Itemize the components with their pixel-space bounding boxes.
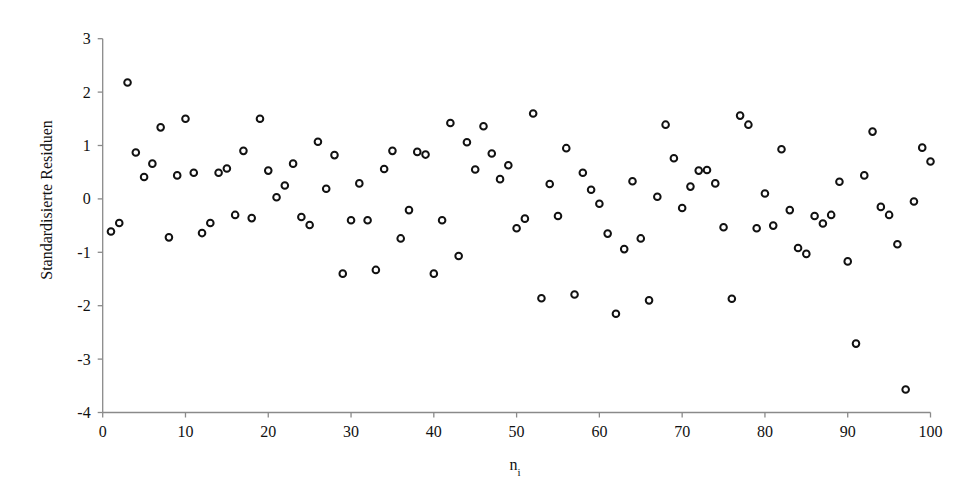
data-point-marker bbox=[190, 169, 197, 176]
data-point-marker bbox=[273, 194, 280, 201]
data-point-marker bbox=[778, 146, 785, 153]
data-point-marker bbox=[629, 178, 636, 185]
y-tick-label: 0 bbox=[83, 190, 91, 207]
data-point-marker bbox=[894, 241, 901, 248]
y-axis-title: Standardisierte Residuen bbox=[38, 120, 55, 280]
data-point-marker bbox=[265, 167, 272, 174]
data-point-marker bbox=[331, 152, 338, 159]
data-point-marker bbox=[257, 116, 264, 123]
data-point-marker bbox=[306, 222, 313, 229]
data-point-marker bbox=[637, 235, 644, 242]
x-tick-label: 80 bbox=[757, 423, 773, 440]
x-axis-title-subscript: i bbox=[517, 466, 520, 478]
data-point-marker bbox=[902, 386, 909, 393]
data-point-marker bbox=[695, 167, 702, 174]
data-point-marker bbox=[232, 212, 239, 219]
data-point-marker bbox=[878, 204, 885, 211]
data-point-marker bbox=[472, 166, 479, 173]
data-point-marker bbox=[240, 148, 247, 155]
x-tick-label: 40 bbox=[426, 423, 442, 440]
data-point-marker bbox=[613, 310, 620, 317]
x-axis-title-main: n bbox=[509, 456, 517, 473]
data-point-marker bbox=[166, 234, 173, 241]
data-point-marker bbox=[323, 185, 330, 192]
x-tick-label: 0 bbox=[99, 423, 107, 440]
data-point-marker bbox=[381, 166, 388, 173]
data-point-marker bbox=[315, 138, 322, 145]
y-tick-label: 1 bbox=[83, 137, 91, 154]
y-tick-label: -1 bbox=[77, 244, 90, 261]
data-point-marker bbox=[215, 169, 222, 176]
x-tick-label: 50 bbox=[509, 423, 525, 440]
data-point-marker bbox=[737, 112, 744, 119]
data-point-marker bbox=[687, 183, 694, 190]
y-tick-label: -2 bbox=[77, 297, 90, 314]
data-point-marker bbox=[911, 198, 918, 205]
data-point-marker bbox=[439, 217, 446, 224]
data-point-marker bbox=[488, 150, 495, 157]
data-point-marker bbox=[803, 251, 810, 258]
data-point-marker bbox=[133, 149, 140, 156]
data-point-marker bbox=[480, 123, 487, 130]
data-point-marker bbox=[762, 190, 769, 197]
y-axis-ticks: 3210-1-2-3-4 bbox=[77, 30, 102, 421]
data-point-marker bbox=[124, 79, 131, 86]
x-tick-label: 100 bbox=[919, 423, 943, 440]
data-point-marker bbox=[505, 162, 512, 169]
data-point-marker bbox=[588, 187, 595, 194]
data-point-marker bbox=[786, 207, 793, 214]
data-point-marker bbox=[745, 121, 752, 128]
data-point-marker bbox=[753, 225, 760, 232]
data-point-marker bbox=[679, 205, 686, 212]
data-point-marker bbox=[298, 214, 305, 221]
data-point-marker bbox=[455, 253, 462, 260]
data-point-marker bbox=[141, 174, 148, 181]
data-point-marker bbox=[580, 169, 587, 176]
data-point-marker bbox=[712, 180, 719, 187]
data-point-marker bbox=[654, 193, 661, 200]
data-point-marker bbox=[522, 215, 529, 222]
data-point-marker bbox=[546, 181, 553, 188]
data-point-marker bbox=[406, 207, 413, 214]
data-point-marker bbox=[919, 144, 926, 151]
data-point-marker bbox=[704, 167, 711, 174]
data-point-marker bbox=[447, 120, 454, 127]
data-point-marker bbox=[108, 228, 115, 235]
x-tick-label: 20 bbox=[260, 423, 276, 440]
data-point-marker bbox=[729, 295, 736, 302]
data-point-marker bbox=[116, 220, 123, 227]
data-point-marker bbox=[339, 270, 346, 277]
data-point-marker bbox=[207, 220, 214, 227]
x-tick-label: 30 bbox=[343, 423, 359, 440]
data-point-marker bbox=[844, 258, 851, 265]
data-point-marker bbox=[671, 155, 678, 162]
data-point-marker bbox=[828, 212, 835, 219]
x-tick-label: 60 bbox=[591, 423, 607, 440]
data-point-marker bbox=[563, 145, 570, 152]
x-axis-ticks: 0102030405060708090100 bbox=[99, 413, 943, 440]
data-point-marker bbox=[174, 172, 181, 179]
data-point-marker bbox=[182, 116, 189, 123]
data-point-marker bbox=[853, 340, 860, 347]
x-tick-label: 10 bbox=[177, 423, 193, 440]
y-tick-label: -4 bbox=[77, 404, 90, 421]
data-point-marker bbox=[348, 217, 355, 224]
data-point-marker bbox=[770, 222, 777, 229]
y-tick-label: 2 bbox=[83, 84, 91, 101]
data-point-marker bbox=[604, 230, 611, 237]
data-point-marker bbox=[199, 230, 206, 237]
data-point-marker bbox=[538, 295, 545, 302]
data-point-marker bbox=[571, 291, 578, 298]
data-point-marker bbox=[373, 267, 380, 274]
data-points bbox=[108, 79, 934, 393]
data-point-marker bbox=[720, 224, 727, 231]
data-point-marker bbox=[513, 225, 520, 232]
data-point-marker bbox=[927, 158, 934, 165]
residual-scatter-chart: 3210-1-2-3-4 0102030405060708090100 Stan… bbox=[0, 0, 978, 504]
data-point-marker bbox=[869, 128, 876, 135]
data-point-marker bbox=[530, 110, 537, 117]
data-point-marker bbox=[248, 215, 255, 222]
data-point-marker bbox=[621, 246, 628, 253]
data-point-marker bbox=[820, 220, 827, 227]
y-tick-label: 3 bbox=[83, 30, 91, 47]
